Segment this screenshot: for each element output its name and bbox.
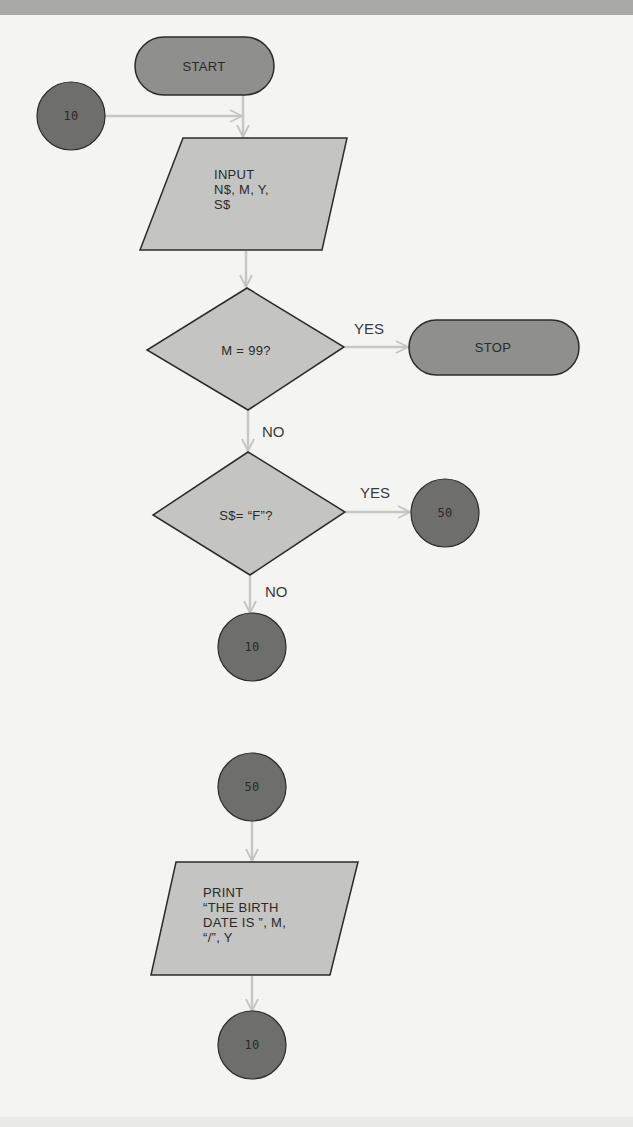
input-label: INPUT N$, M, Y, S$ xyxy=(214,167,269,212)
decision-s-yes-label: YES xyxy=(360,484,390,501)
print-label: PRINT “THE BIRTH DATE IS ”, M, “/”, Y xyxy=(203,885,286,945)
connector-10-end-label: 10 xyxy=(244,1038,259,1052)
decision-m-yes-label: YES xyxy=(354,320,384,337)
decision-s-label: S$= “F”? xyxy=(219,508,272,523)
decision-m-no-label: NO xyxy=(262,423,285,440)
connector-10-loop-label: 10 xyxy=(244,640,259,654)
stop-label: STOP xyxy=(475,340,511,355)
connector-50-out-label: 50 xyxy=(437,506,452,520)
decision-s-no-label: NO xyxy=(265,583,288,600)
decision-m-label: M = 99? xyxy=(221,343,270,358)
start-label: START xyxy=(183,59,226,74)
flowchart-canvas xyxy=(0,0,633,1127)
connector-10-entry-label: 10 xyxy=(63,109,78,123)
connector-50-in-label: 50 xyxy=(244,780,259,794)
